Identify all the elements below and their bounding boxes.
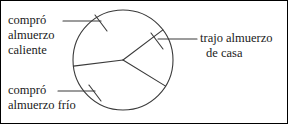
callout-hot-lunch-line-1: compró — [8, 13, 55, 28]
pie-divider-left — [73, 60, 123, 66]
callout-from-home-line-1: trajo almuerzo — [200, 31, 273, 46]
callout-label-from-home: trajo almuerzo de casa — [200, 31, 273, 61]
pie-divider-upper-right — [123, 30, 163, 60]
callout-hot-lunch-line-3: caliente — [8, 43, 55, 58]
callout-label-cold-lunch: compró almuerzo frío — [8, 83, 76, 113]
callout-from-home-line-2: de casa — [200, 46, 273, 61]
callout-cold-lunch-line-1: compró — [8, 83, 76, 98]
pie-chart-figure: compró almuerzo caliente compró almuerzo… — [0, 0, 288, 124]
callout-hot-lunch-line-2: almuerzo — [8, 28, 55, 43]
callout-label-hot-lunch: compró almuerzo caliente — [8, 13, 55, 58]
callout-cold-lunch-line-2: almuerzo frío — [8, 98, 76, 113]
leader-tick-from-home — [151, 33, 163, 49]
leader-tick-hot-lunch — [95, 15, 107, 31]
pie-divider-lower-right — [123, 60, 166, 86]
